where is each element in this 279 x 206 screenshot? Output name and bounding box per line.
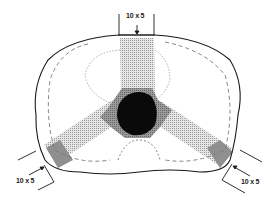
left-field-marker (18, 151, 54, 190)
left-field-label: 10 x 5 (16, 177, 34, 184)
dose-distribution-diagram (0, 0, 279, 206)
anterior-field-label: 10 x 5 (126, 12, 144, 19)
right-field-label: 10 x 5 (241, 178, 259, 185)
target-volume (117, 92, 157, 135)
